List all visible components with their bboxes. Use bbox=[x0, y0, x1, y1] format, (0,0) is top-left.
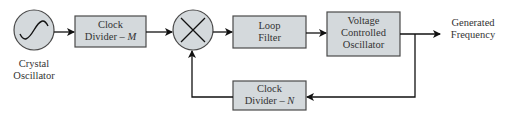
label-line: Frequency bbox=[440, 29, 506, 41]
label-line: Generated bbox=[440, 17, 506, 29]
crystal-oscillator-node bbox=[14, 10, 54, 50]
label-line: Oscillator bbox=[327, 39, 400, 51]
label-line: Clock bbox=[233, 83, 306, 95]
label-line: Oscillator bbox=[4, 70, 64, 82]
crystal-oscillator-label: Crystal Oscillator bbox=[4, 58, 64, 82]
label-line: Clock bbox=[75, 19, 146, 31]
label-line: Crystal bbox=[4, 58, 64, 70]
mixer-node bbox=[173, 10, 213, 50]
feedback-div-n-to-mixer bbox=[192, 51, 233, 97]
vco-label: Voltage Controlled Oscillator bbox=[327, 15, 400, 51]
clock-divider-n-label: Clock Divider – N bbox=[233, 83, 306, 107]
label-line: Loop bbox=[233, 20, 306, 32]
loop-filter-label: Loop Filter bbox=[233, 20, 306, 44]
label-text: Divider – bbox=[245, 95, 288, 106]
label-text: Divider – bbox=[85, 31, 128, 42]
label-line: Controlled bbox=[327, 27, 400, 39]
label-line: Filter bbox=[233, 32, 306, 44]
label-line: Voltage bbox=[327, 15, 400, 27]
generated-frequency-label: Generated Frequency bbox=[440, 17, 506, 41]
label-line: Divider – N bbox=[233, 95, 306, 107]
clock-divider-m-label: Clock Divider – M bbox=[75, 19, 146, 43]
variable-m: M bbox=[127, 31, 136, 42]
label-line: Divider – M bbox=[75, 31, 146, 43]
variable-n: N bbox=[287, 95, 294, 106]
